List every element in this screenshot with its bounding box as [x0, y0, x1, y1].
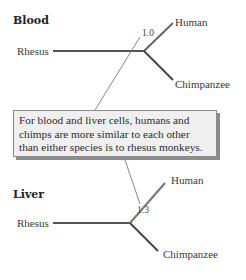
liver-rhesus-label: Rhesus [17, 217, 49, 229]
liver-distance-label: 1.3 [137, 205, 149, 215]
blood-rhesus-label: Rhesus [17, 45, 49, 57]
liver-pointer-line [124, 157, 140, 204]
blood-distance-label: 1.0 [142, 28, 154, 38]
blood-chimp-branch [144, 51, 173, 80]
liver-chimpanzee-label: Chimpanzee [163, 248, 218, 260]
liver-human-label: Human [171, 174, 203, 186]
liver-title: Liver [13, 188, 44, 201]
blood-pointer-line [95, 37, 140, 110]
blood-human-label: Human [175, 16, 207, 28]
blood-title: Blood [13, 14, 49, 27]
blood-chimpanzee-label: Chimpanzee [175, 78, 230, 90]
liver-chimp-branch [130, 223, 158, 251]
note-box: For blood and liver cells, humans and ch… [13, 110, 217, 157]
